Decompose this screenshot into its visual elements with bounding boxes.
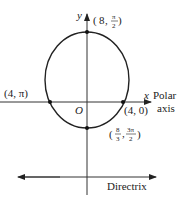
top-point-label-bracket-l: (	[93, 14, 97, 27]
bottom-point-label-bracket-r: )	[137, 128, 141, 141]
origin-label: O	[75, 104, 83, 116]
point-left	[48, 100, 52, 104]
top-point-label-bracket-r: )	[118, 14, 122, 27]
bottom-point-r-den: 3	[116, 135, 120, 143]
y-axis-label: y	[76, 9, 82, 21]
right-point-label: (4, 0)	[124, 104, 148, 117]
top-point-label-comma: ,	[105, 14, 108, 26]
bottom-point-theta-den: 2	[129, 135, 133, 143]
left-point-label: (4, π)	[4, 87, 28, 100]
polar-ellipse-diagram: y x O Polar axis ( 8 , π 2 ) (4, π) (4, …	[0, 0, 184, 211]
point-top	[85, 30, 89, 34]
bottom-point-r-num: 8	[116, 126, 120, 134]
top-point-theta-den: 2	[112, 22, 116, 30]
top-point-theta-num: π	[112, 13, 116, 21]
point-bottom	[85, 126, 89, 130]
polar-axis-label-2: axis	[157, 102, 175, 114]
polar-axis-label-1: Polar	[153, 89, 177, 101]
x-axis-label: x	[143, 89, 149, 101]
bottom-point-theta-num: 3π	[127, 126, 135, 134]
directrix-label: Directrix	[107, 180, 147, 192]
bottom-point-label-bracket-l: (	[109, 128, 113, 141]
bottom-point-comma: ,	[122, 127, 125, 139]
